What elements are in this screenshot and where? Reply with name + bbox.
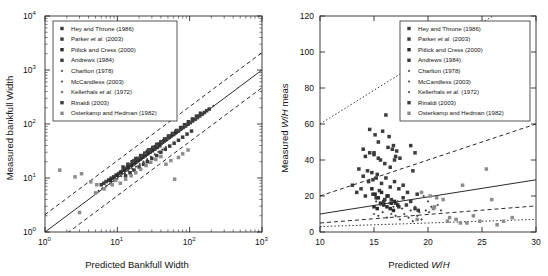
data-point [396, 203, 400, 207]
legend-label-5: McCandless (2003) [71, 78, 124, 85]
data-point [164, 148, 168, 152]
data-point [159, 155, 163, 159]
right-y-tick-label: 60 [305, 119, 315, 129]
data-point [144, 164, 148, 168]
legend-label-8: Osterkamp and Hedman (1982) [418, 109, 504, 116]
data-point [361, 147, 365, 151]
data-point [124, 174, 128, 178]
right-y-tick-label: 40 [305, 155, 315, 165]
data-point [368, 151, 372, 155]
data-point [433, 205, 437, 209]
legend-label-3: Andrews (1984) [418, 56, 461, 63]
right-y-tick-label: 0 [309, 227, 314, 237]
data-point [139, 168, 143, 172]
data-point [393, 180, 397, 184]
data-point [186, 148, 190, 152]
legend-marker-7 [407, 101, 410, 104]
data-point [377, 196, 381, 200]
left-y-tick-label: 101 [23, 172, 36, 183]
data-point [383, 162, 387, 166]
data-point [364, 194, 368, 198]
legend-marker-0 [407, 27, 410, 30]
data-point [89, 180, 93, 184]
legend-marker-3 [407, 59, 410, 62]
left-x-tick-label: 102 [183, 236, 196, 247]
right-xaxis-label: Predicted W/H [388, 259, 449, 270]
data-point [355, 191, 359, 195]
legend-label-1: Parker et al. (2003) [418, 35, 470, 42]
legend-marker-7 [60, 101, 63, 104]
width-depth-ratio-svg: 1015202530020406080100120Hey and Throne … [274, 0, 548, 276]
data-point [380, 191, 384, 195]
data-point [384, 113, 388, 117]
data-point [181, 135, 185, 139]
data-point [155, 154, 159, 158]
data-point [159, 150, 163, 154]
legend-marker-2 [60, 48, 63, 51]
figure-container: 100101102103100101102103104Hey and Thron… [0, 0, 548, 276]
data-point [413, 151, 417, 155]
data-point [398, 156, 402, 160]
data-point [367, 180, 371, 184]
data-point [372, 205, 376, 209]
data-point [177, 156, 181, 160]
data-point [95, 183, 99, 187]
right-x-tick-label: 30 [531, 237, 541, 247]
data-point [461, 183, 465, 187]
left-y-tick-label: 100 [23, 226, 36, 237]
legend-marker-8 [407, 112, 410, 115]
data-point [454, 218, 458, 222]
left-y-tick-label: 102 [23, 118, 36, 129]
data-point [411, 169, 415, 173]
data-point [406, 191, 410, 195]
right-x-tick-label: 20 [423, 237, 433, 247]
data-point [109, 179, 113, 183]
data-point [185, 132, 189, 136]
data-point [58, 168, 62, 172]
legend-label-6: Kellerhals et al. (1972) [71, 88, 132, 95]
data-point [146, 160, 150, 164]
right-y-tick-label: 80 [305, 83, 315, 93]
legend-marker-2 [407, 48, 410, 51]
legend-label-1: Parker et al. (2003) [71, 35, 123, 42]
bankfull-width-svg: 100101102103100101102103104Hey and Thron… [0, 0, 274, 276]
data-point [420, 191, 424, 195]
data-point [385, 205, 389, 209]
data-point [394, 155, 398, 159]
data-point [110, 183, 114, 187]
data-point [372, 153, 376, 157]
data-point [441, 198, 445, 202]
data-point [154, 158, 158, 162]
left-y-tick-label: 103 [23, 64, 36, 75]
data-point [359, 187, 363, 191]
data-point [364, 155, 368, 159]
data-point [386, 146, 390, 150]
legend-label-0: Hey and Throne (1986) [71, 25, 134, 32]
left-legend: Hey and Throne (1986)Parker et al. (2003… [53, 21, 177, 121]
legend-label-0: Hey and Throne (1986) [418, 25, 481, 32]
right-x-tick-label: 25 [477, 237, 487, 247]
legend-label-4: Charlton (1978) [71, 67, 113, 74]
data-point [382, 203, 386, 207]
data-point [94, 191, 98, 195]
left-x-tick-label: 103 [255, 236, 268, 247]
data-point [371, 178, 375, 182]
data-point [387, 135, 391, 139]
data-point [388, 207, 392, 211]
data-point [368, 128, 372, 131]
data-point [392, 209, 396, 213]
legend-label-7: Rinaldi (2003) [71, 99, 109, 106]
data-point [401, 183, 405, 187]
data-point [128, 171, 132, 175]
legend-label-8: Osterkamp and Hedman (1982) [71, 109, 157, 116]
data-point [80, 172, 84, 176]
data-point [446, 219, 450, 223]
legend-marker-8 [60, 112, 63, 115]
data-point [114, 179, 118, 183]
right-y-tick-label: 100 [300, 47, 314, 57]
legend-label-3: Andrews (1984) [71, 56, 114, 63]
data-point [415, 192, 419, 196]
legend-marker-0 [60, 27, 63, 30]
data-point [510, 216, 514, 220]
legend-label-6: Kellerhals et al. (1972) [418, 88, 479, 95]
